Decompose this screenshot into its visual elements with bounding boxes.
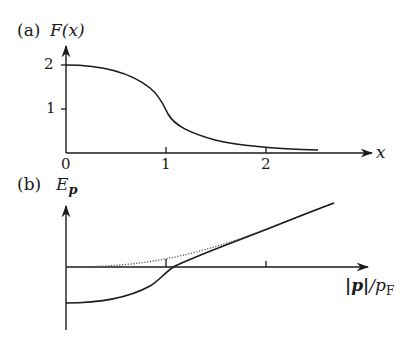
panel-a-xtick-label-0: 0 bbox=[61, 155, 71, 173]
panel-a-axes bbox=[61, 46, 372, 153]
panel-b-function-title: Ep bbox=[56, 174, 78, 194]
panel-b-xaxis-p: |p| bbox=[345, 275, 369, 295]
panel-a-ytick-label-1: 1 bbox=[46, 99, 56, 117]
panel-a-ytick-label-2: 2 bbox=[44, 55, 54, 73]
panel-a-x-axis-label: x bbox=[376, 142, 386, 162]
panel-b-func-main: E bbox=[56, 174, 68, 194]
panel-b-curve-solid bbox=[66, 203, 334, 303]
panel-b-xaxis-sub: F bbox=[386, 284, 394, 298]
panel-b-label: (b) bbox=[17, 174, 41, 194]
panel-a-xtick-label-1: 1 bbox=[161, 155, 171, 173]
panel-b-xaxis-rest: /p bbox=[369, 275, 386, 295]
panel-b-curve-free-dotted bbox=[66, 203, 334, 267]
panel-a-xtick-label-2: 2 bbox=[261, 155, 271, 173]
panel-b-x-axis-label: |p|/pF bbox=[345, 275, 394, 295]
panel-b-func-sub: p bbox=[68, 182, 77, 197]
panel-a-label: (a) bbox=[17, 20, 40, 40]
panel-a-function-title: F(x) bbox=[50, 20, 85, 40]
panel-b-axes bbox=[66, 206, 368, 330]
panel-a-curve-F bbox=[66, 65, 318, 150]
